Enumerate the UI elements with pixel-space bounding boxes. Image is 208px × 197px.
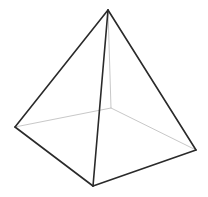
visible-edges (15, 10, 196, 186)
edge-apex-back (108, 10, 111, 108)
edge-apex-left (15, 10, 108, 127)
pyramid-diagram (0, 0, 208, 197)
edge-left-back (15, 108, 111, 127)
edge-apex-right (108, 10, 196, 150)
edge-apex-front (93, 10, 108, 186)
edge-front-right (93, 150, 196, 186)
edge-left-front (15, 127, 93, 186)
